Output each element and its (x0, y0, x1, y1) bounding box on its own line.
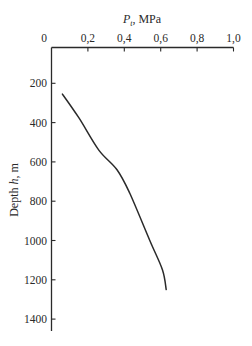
x-axis-unit: , MPa (132, 12, 161, 26)
x-tick-label: 1,0 (226, 32, 241, 45)
y-axis-title: Depth h, m (7, 163, 21, 217)
y-tick-label: 600 (30, 156, 48, 168)
x-tick-label: 0,2 (81, 32, 96, 45)
y-axis-unit: , m (7, 163, 21, 179)
x-tick-label: 0,6 (154, 32, 169, 45)
y-tick-label: 800 (30, 195, 48, 207)
y-tick-label: 200 (30, 77, 48, 89)
x-tick-label: 0,8 (190, 32, 205, 45)
y-tick-labels: 200400600800100012001400 (24, 77, 47, 325)
axes (52, 48, 234, 332)
x-tick-label: 0 (41, 32, 47, 44)
y-tick-label: 400 (30, 117, 48, 129)
chart: Pt, MPa Depth h, m 00,20,40,60,81,0 2004… (0, 0, 252, 346)
x-axis-title: Pt, MPa (122, 12, 162, 28)
y-tick-label: 1200 (24, 274, 47, 286)
x-tick-label: 0,4 (117, 32, 132, 45)
data-curve (62, 94, 166, 290)
x-tick-labels: 00,20,40,60,81,0 (41, 32, 241, 45)
y-tick-label: 1000 (24, 235, 47, 247)
y-tick-label: 1400 (24, 313, 47, 325)
y-axis-prefix: Depth (7, 185, 21, 217)
